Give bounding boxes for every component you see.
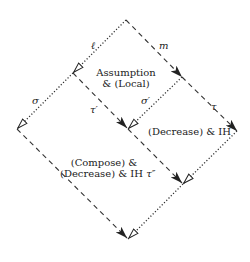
region-top-line2: & (Local) bbox=[96, 78, 156, 89]
diagram-canvas: ℓ m σ τ′ σ′ τ Assumption & (Local) (Decr… bbox=[0, 0, 250, 262]
edge-tau bbox=[182, 77, 237, 131]
edge-right2-lowright bbox=[183, 131, 237, 184]
region-top-label: Assumption & (Local) bbox=[96, 67, 156, 89]
region-top-line1: Assumption bbox=[96, 67, 156, 78]
edge-sigma bbox=[17, 73, 73, 129]
edge-tau-double-prime bbox=[17, 129, 127, 238]
region-right-label: (Decrease) & IH bbox=[148, 126, 231, 137]
label-m: m bbox=[159, 40, 168, 51]
label-sigma-prime: σ′ bbox=[141, 95, 150, 106]
label-sigma: σ bbox=[32, 95, 39, 106]
region-bottom-line2: (Decrease) & IH bbox=[60, 168, 143, 179]
region-bottom-label: (Compose) & (Decrease) & IH τ″ bbox=[58, 157, 150, 179]
label-tau-double-prime: τ″ bbox=[146, 168, 155, 179]
label-tau: τ bbox=[211, 101, 217, 112]
label-tau-prime: τ′ bbox=[90, 104, 98, 115]
region-bottom-line1: (Compose) & bbox=[58, 157, 150, 168]
edge-lowright-bottom bbox=[128, 184, 183, 239]
label-ell: ℓ bbox=[91, 40, 95, 51]
edge-ell bbox=[73, 20, 126, 73]
